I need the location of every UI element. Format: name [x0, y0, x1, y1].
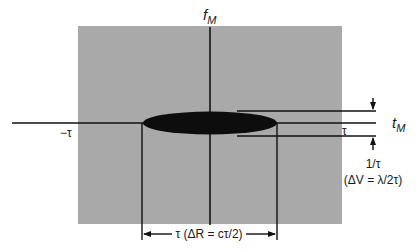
ambiguity-diagram: fM tM −τ τ 1/τ (ΔV = λ/2τ) τ (ΔR = cτ/2)	[0, 0, 419, 252]
frequency-axis-label: fM	[203, 6, 217, 26]
range-width-label: τ (ΔR = cτ/2)	[175, 227, 242, 241]
time-axis-label: tM	[392, 114, 406, 134]
response-ellipse	[143, 112, 277, 135]
doppler-width-label: 1/τ	[366, 157, 381, 171]
doppler-equation-label: (ΔV = λ/2τ)	[344, 173, 402, 187]
neg-tau-label: −τ	[60, 126, 72, 140]
pos-tau-label: τ	[342, 124, 347, 138]
